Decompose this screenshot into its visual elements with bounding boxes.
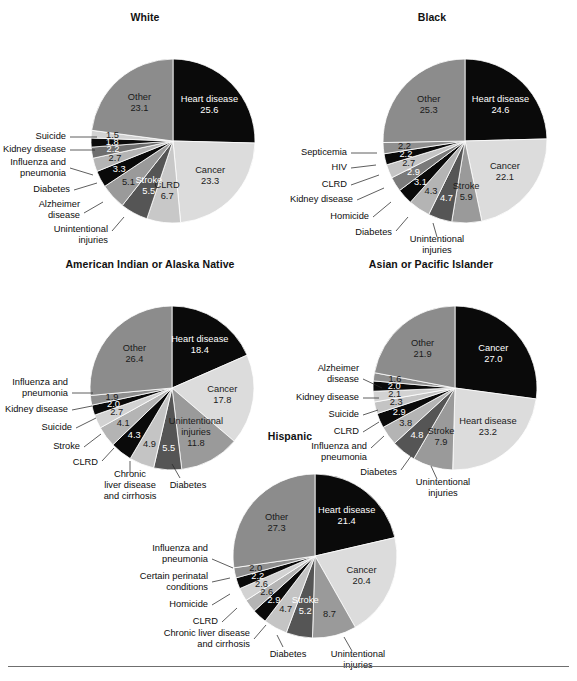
slice-label: Other xyxy=(123,343,146,353)
slice-callout-label: and cirrhosis xyxy=(197,639,250,649)
slice-callout-label: Suicide xyxy=(42,422,73,432)
leader-line xyxy=(396,217,408,231)
slice-label: Other xyxy=(128,92,151,102)
slice-value: 25.6 xyxy=(200,105,218,115)
leader-line xyxy=(222,608,237,622)
slice-label: Cancer xyxy=(490,161,520,171)
slice-value: 8.7 xyxy=(323,609,336,619)
slice-value: 4.1 xyxy=(117,418,130,428)
slice-callout-label: pneumonia xyxy=(20,168,67,178)
leader-line xyxy=(102,448,114,461)
slice-label: Other xyxy=(265,512,288,522)
slice-value: 2.9 xyxy=(407,167,420,177)
pie-white: Heart disease25.6Cancer23.3CLRD6.7Stroke… xyxy=(0,20,290,250)
leader-line xyxy=(212,594,230,605)
slice-label: Stroke xyxy=(292,595,319,605)
slice-callout-label: Stroke xyxy=(53,441,80,451)
pie-chart-figure: White Heart disease25.6Cancer23.3CLRD6.7… xyxy=(0,0,577,681)
slice-value: 22.1 xyxy=(496,172,514,182)
slice-value: 27.3 xyxy=(267,523,285,533)
slice-value: 3.8 xyxy=(399,418,412,428)
slice-callout-label: Unintentional xyxy=(54,224,108,234)
slice-label: Unintentional xyxy=(169,416,223,426)
slice-value: 26.4 xyxy=(125,354,143,364)
slice-value: 24.6 xyxy=(491,105,509,115)
slice-callout-label: Chronic liver disease xyxy=(164,628,250,638)
slice-callout-label: Unintentional xyxy=(410,234,464,244)
slice-label: Cancer xyxy=(347,565,377,575)
slice-label: Cancer xyxy=(207,384,237,394)
slice-callout-label: injuries xyxy=(79,235,109,245)
slice-value: 5.5 xyxy=(142,186,155,196)
leader-line xyxy=(351,165,376,168)
slice-value: 5.9 xyxy=(460,192,473,202)
slice-callout-label: disease xyxy=(327,374,359,384)
slice-value: 18.4 xyxy=(191,345,209,355)
slice-callout-label: pneumonia xyxy=(22,388,69,398)
panel-title-hispanic: Hispanic xyxy=(140,430,440,442)
leader-line xyxy=(74,183,97,190)
slice-value: 1.6 xyxy=(388,374,401,384)
panel-black: Black Heart disease24.6Cancer22.1Stroke5… xyxy=(287,6,577,252)
leader-line xyxy=(72,406,92,410)
slice-value: 2.0 xyxy=(249,563,262,573)
slice-callout-label: pneumonia xyxy=(162,554,209,564)
slice-callout-label: Influenza and xyxy=(152,543,208,553)
leader-line xyxy=(277,635,283,647)
slice-callout-label: Diabetes xyxy=(355,227,392,237)
slice-value: 4.7 xyxy=(279,604,292,614)
leader-line xyxy=(254,625,266,639)
slice-callout-label: Suicide xyxy=(329,409,360,419)
slice-callout-label: CLRD xyxy=(193,616,219,626)
slice-value: 2.7 xyxy=(108,153,121,163)
leader-line xyxy=(373,202,391,217)
slice-callout-label: Certain perinatal xyxy=(140,571,208,581)
slice-label: Cancer xyxy=(478,343,508,353)
leader-line xyxy=(351,175,379,185)
slice-callout-label: conditions xyxy=(166,582,208,592)
slice-value: 1.5 xyxy=(106,130,119,140)
slice-callout-label: Influenza and xyxy=(10,157,66,167)
leader-line xyxy=(363,410,378,415)
slice-callout-label: Alzheimer xyxy=(39,199,80,209)
slice-label: Stroke xyxy=(135,175,162,185)
footer-divider xyxy=(8,666,569,667)
slice-value: 17.8 xyxy=(213,395,231,405)
leader-line xyxy=(112,217,124,231)
slice-value: 27.0 xyxy=(484,354,502,364)
slice-callout-label: Diabetes xyxy=(33,184,70,194)
slice-callout-label: Suicide xyxy=(36,131,67,141)
slice-value: 23.1 xyxy=(130,103,148,113)
slice-label: Cancer xyxy=(195,165,225,175)
slice-callout-label: injuries xyxy=(422,245,452,255)
slice-callout-label: Kidney disease xyxy=(296,392,359,402)
slice-callout-label: Septicemia xyxy=(301,147,348,157)
slice-value: 3.3 xyxy=(113,164,126,174)
slice-value: 5.1 xyxy=(122,177,135,187)
slice-callout-label: CLRD xyxy=(322,179,348,189)
slice-value: 21.4 xyxy=(338,516,356,526)
slice-value: 5.2 xyxy=(299,606,312,616)
slice-callout-label: Kidney disease xyxy=(290,194,353,204)
slice-label: Heart disease xyxy=(472,94,529,104)
panel-title-asian-or-pacific-islander: Asian or Pacific Islander xyxy=(285,258,577,270)
slice-value: 6.7 xyxy=(161,191,174,201)
slice-value: 4.3 xyxy=(128,430,141,440)
slice-callout-label: Influenza and xyxy=(12,377,68,387)
panel-title-american-indian-or-alaska-native: American Indian or Alaska Native xyxy=(0,258,300,270)
slice-callout-label: Diabetes xyxy=(270,649,307,659)
slice-callout-label: Unintentional xyxy=(331,649,385,659)
slice-callout-label: Homicide xyxy=(330,211,369,221)
slice-callout-label: disease xyxy=(48,210,80,220)
slice-value: 4.3 xyxy=(425,186,438,196)
slice-callout-label: Alzheimer xyxy=(318,363,359,373)
leader-line xyxy=(212,559,233,568)
pie-black: Heart disease24.6Cancer22.1Stroke5.94.74… xyxy=(287,20,577,250)
slice-value: 23.3 xyxy=(201,176,219,186)
slice-callout-label: CLRD xyxy=(73,457,99,467)
pie-hispanic: Heart disease21.4Cancer20.48.7Stroke5.24… xyxy=(140,442,440,670)
slice-value: 2.2 xyxy=(398,141,411,151)
slice-label: Stroke xyxy=(453,181,480,191)
leader-line xyxy=(84,202,103,213)
slice-label: Heart disease xyxy=(318,505,375,515)
